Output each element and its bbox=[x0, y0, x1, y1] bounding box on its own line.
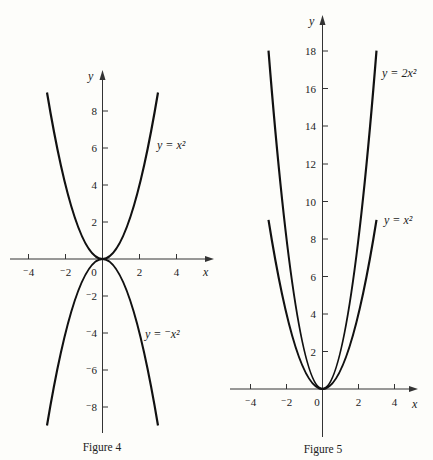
fig5-y-tick-label: 8 bbox=[311, 233, 317, 245]
fig5-x-tick-label: ⁻4 bbox=[245, 396, 257, 408]
fig4-y-tick-label: ⁻6 bbox=[86, 364, 98, 376]
fig4-origin-label: 0 bbox=[91, 266, 97, 278]
fig5-y-axis-label: y bbox=[308, 14, 315, 28]
fig5-origin-label: 0 bbox=[314, 396, 320, 408]
fig5-y-arrow-icon bbox=[320, 15, 326, 25]
fig4-y-tick-label: ⁻4 bbox=[86, 327, 98, 339]
fig4-y-tick-label: 4 bbox=[92, 179, 98, 191]
fig4-label-y-equals-neg-x-squared: y = ⁻x² bbox=[144, 327, 180, 341]
figure-4: y x ⁻4 ⁻2 0 2 4 8 6 4 2 ⁻ bbox=[10, 69, 214, 454]
figure-5: y x ⁻4 ⁻2 0 2 4 18 16 14 bbox=[230, 14, 418, 456]
fig4-y-arrow-icon bbox=[100, 70, 106, 80]
fig4-y-tick-label: 2 bbox=[92, 216, 98, 228]
fig5-y-tick-label: 16 bbox=[305, 83, 317, 95]
fig4-x-tick-label: 4 bbox=[174, 266, 180, 278]
fig4-caption: Figure 4 bbox=[83, 441, 122, 454]
fig5-y-tick-label: 10 bbox=[305, 196, 317, 208]
fig4-x-arrow-icon bbox=[205, 256, 214, 262]
fig5-label-y-equals-2x-squared: y = 2x² bbox=[381, 66, 417, 80]
fig4-x-ticks: ⁻4 ⁻2 0 2 4 bbox=[23, 254, 180, 278]
fig5-x-axis-label: x bbox=[411, 397, 418, 411]
fig4-x-tick-label: 2 bbox=[137, 266, 143, 278]
fig5-caption: Figure 5 bbox=[304, 443, 343, 456]
fig5-y-tick-label: 14 bbox=[305, 120, 317, 132]
fig5-y-tick-label: 12 bbox=[305, 158, 316, 170]
fig4-x-axis-label: x bbox=[202, 265, 209, 279]
figures-canvas: y x ⁻4 ⁻2 0 2 4 8 6 4 2 ⁻ bbox=[0, 0, 433, 460]
fig4-x-tick-label: ⁻2 bbox=[60, 266, 71, 278]
fig5-y-tick-label: 6 bbox=[311, 271, 317, 283]
fig5-y-tick-label: 2 bbox=[311, 346, 317, 358]
fig5-x-ticks: ⁻4 ⁻2 0 2 4 bbox=[245, 384, 398, 408]
fig5-y-tick-label: 18 bbox=[305, 45, 317, 57]
fig5-x-tick-label: 4 bbox=[392, 396, 398, 408]
fig5-label-y-equals-x-squared: y = x² bbox=[383, 213, 413, 227]
fig4-y-axis-label: y bbox=[87, 69, 94, 83]
fig5-y-tick-label: 4 bbox=[311, 308, 317, 320]
fig4-y-tick-label: 6 bbox=[92, 142, 98, 154]
fig5-y-ticks: 18 16 14 12 10 8 6 4 2 bbox=[305, 45, 328, 358]
fig4-y-tick-label: 8 bbox=[92, 105, 98, 117]
fig5-x-arrow-icon bbox=[409, 386, 418, 392]
fig4-x-tick-label: ⁻4 bbox=[23, 266, 35, 278]
fig5-x-tick-label: ⁻2 bbox=[281, 396, 292, 408]
fig5-x-tick-label: 2 bbox=[356, 396, 362, 408]
fig4-y-tick-label: ⁻8 bbox=[86, 401, 98, 413]
fig4-y-tick-label: ⁻2 bbox=[86, 290, 97, 302]
fig4-label-y-equals-x-squared: y = x² bbox=[156, 138, 186, 152]
